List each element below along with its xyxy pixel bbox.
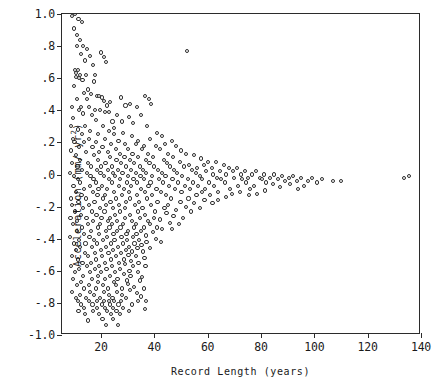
data-point [130, 152, 134, 156]
data-point [114, 254, 118, 258]
data-point [76, 309, 80, 313]
data-point [121, 306, 125, 310]
data-point [134, 142, 138, 146]
data-point [106, 168, 110, 172]
data-point [146, 152, 150, 156]
data-point [116, 139, 120, 143]
data-point [94, 213, 98, 217]
data-point [86, 318, 90, 322]
data-point [92, 153, 96, 157]
data-point [142, 286, 146, 290]
data-point [178, 160, 182, 164]
data-point [155, 131, 159, 135]
data-point [92, 293, 96, 297]
y-tick-label: .4 [42, 103, 55, 117]
data-point [164, 193, 168, 197]
data-point [105, 103, 109, 107]
data-point [195, 166, 199, 170]
data-point [152, 216, 156, 220]
data-point [170, 177, 174, 181]
data-point [96, 225, 100, 229]
data-point [295, 179, 299, 183]
data-point [140, 147, 144, 151]
data-point [402, 176, 406, 180]
data-point [136, 261, 140, 265]
data-point [208, 193, 212, 197]
data-point [96, 158, 100, 162]
data-point [128, 288, 132, 292]
data-point [174, 144, 178, 148]
data-point [94, 180, 98, 184]
data-point [235, 166, 239, 170]
data-point [113, 174, 117, 178]
data-point [299, 176, 303, 180]
data-point [159, 190, 163, 194]
data-point [238, 190, 242, 194]
data-point [278, 185, 282, 189]
data-point [120, 193, 124, 197]
y-tick-label: -1.0 [28, 328, 55, 342]
data-point [111, 206, 115, 210]
data-point [104, 60, 108, 64]
data-point [119, 161, 123, 165]
data-point [71, 116, 75, 120]
data-point [115, 113, 119, 117]
data-point [75, 44, 79, 48]
data-point [114, 147, 118, 151]
data-point [134, 232, 138, 236]
data-point [192, 153, 196, 157]
data-point [142, 177, 146, 181]
data-point [144, 240, 148, 244]
data-point [95, 241, 99, 245]
y-tick-label: .6 [42, 71, 55, 85]
data-point [134, 254, 138, 258]
data-point [84, 216, 88, 220]
y-axis-title: Acceleration (mm/ yr2) [69, 123, 82, 267]
data-point [123, 262, 127, 266]
data-point [131, 264, 135, 268]
y-tick-label: -.4 [35, 232, 55, 246]
data-point [296, 187, 300, 191]
y-tick-label: -.6 [35, 264, 55, 278]
data-point [83, 124, 87, 128]
x-tick-mark [368, 333, 369, 338]
data-point [118, 225, 122, 229]
data-point [120, 286, 124, 290]
data-point [188, 187, 192, 191]
data-point [95, 193, 99, 197]
data-point [80, 78, 84, 82]
data-point [131, 121, 135, 125]
data-point [100, 254, 104, 258]
y-tick-mark [57, 335, 62, 336]
data-point [216, 198, 220, 202]
data-point [84, 196, 88, 200]
data-point [99, 248, 103, 252]
data-point [87, 283, 91, 287]
data-point [167, 184, 171, 188]
data-point [123, 206, 127, 210]
data-point [236, 184, 240, 188]
data-point [204, 169, 208, 173]
y-tick-mark [57, 175, 62, 176]
data-point [104, 229, 108, 233]
data-point [139, 243, 143, 247]
data-point [145, 196, 149, 200]
data-point [86, 222, 90, 226]
data-point [85, 264, 89, 268]
data-point [90, 209, 94, 213]
data-point [102, 174, 106, 178]
x-axis-title: Record Length (years) [61, 366, 420, 377]
data-point [178, 200, 182, 204]
data-point [112, 132, 116, 136]
y-tick-label: 1.0 [35, 7, 55, 21]
data-point [118, 312, 122, 316]
data-point [111, 248, 115, 252]
data-point [181, 216, 185, 220]
data-point [117, 203, 121, 207]
data-point [151, 155, 155, 159]
x-tick-mark [154, 333, 155, 338]
data-point [202, 198, 206, 202]
data-point [114, 196, 118, 200]
data-point [247, 193, 251, 197]
data-point [87, 137, 91, 141]
